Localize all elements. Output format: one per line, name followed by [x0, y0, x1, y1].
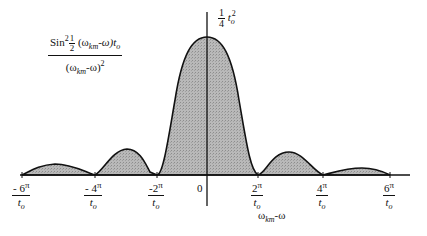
- tick-label-neg-2pi: -2π to: [148, 181, 164, 211]
- formula-denominator: (ωkm-ω)2: [48, 56, 122, 76]
- tick-label-4pi: 4π to: [316, 181, 328, 211]
- formula-numerator: Sin212 (ωkm-ω)to: [48, 34, 122, 56]
- x-axis-label: ωkm-ω: [258, 210, 285, 224]
- peak-value-label: 14 to2: [218, 8, 236, 29]
- tick-label-2pi: 2π to: [251, 181, 263, 211]
- tick-label-neg-6pi: - 6π to: [12, 181, 30, 211]
- function-formula: Sin212 (ωkm-ω)to (ωkm-ω)2: [48, 34, 122, 76]
- tick-label-6pi: 6π to: [383, 181, 395, 211]
- tick-label-neg-4pi: - 4π to: [84, 181, 102, 211]
- half-fraction: 12: [69, 34, 76, 53]
- origin-label: 0: [197, 183, 203, 194]
